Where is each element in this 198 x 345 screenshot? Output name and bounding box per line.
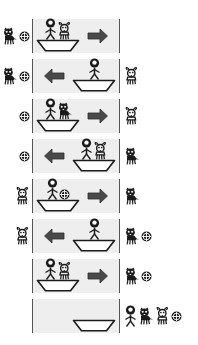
left-bank: [0, 296, 32, 336]
puzzle-step-row: [0, 296, 198, 336]
arrow-left-icon: [43, 148, 65, 164]
coin-icon: [19, 151, 30, 162]
wolf-icon: [124, 227, 140, 245]
person-icon: [44, 18, 57, 40]
river: [32, 99, 120, 133]
puzzle-step-row: [0, 96, 198, 136]
person-icon: [124, 305, 137, 327]
puzzle-step-row: [0, 216, 198, 256]
left-bank: [0, 176, 32, 216]
direction-arrow-slot: [87, 179, 109, 213]
boat-slot: [72, 299, 116, 333]
river: [32, 19, 120, 53]
coin-icon: [19, 111, 30, 122]
person-icon: [44, 98, 57, 120]
person-icon: [88, 218, 101, 240]
boat-slot: [36, 99, 80, 133]
boat-cargo: [36, 180, 80, 200]
coin-icon: [19, 31, 30, 42]
boat-cargo: [72, 220, 116, 240]
river: [32, 219, 120, 253]
wolf-icon: [2, 67, 18, 85]
left-bank: [0, 16, 32, 56]
boat-slot: [72, 219, 116, 253]
boat-hull: [72, 318, 116, 331]
river: [32, 179, 120, 213]
wolf-icon: [2, 27, 18, 45]
puzzle-step-row: [0, 176, 198, 216]
puzzle-step-row: [0, 56, 198, 96]
person-icon: [88, 58, 101, 80]
boat-hull: [36, 198, 80, 211]
boat-hull: [36, 118, 80, 131]
river-crossing-diagram: [0, 0, 198, 345]
right-bank: [122, 136, 198, 176]
boat-icon: [72, 221, 116, 251]
boat-icon: [72, 141, 116, 171]
arrow-left-icon: [43, 68, 65, 84]
coin-icon: [141, 271, 152, 282]
wolf-icon: [124, 147, 140, 165]
person-icon: [46, 178, 59, 200]
boat-hull: [72, 158, 116, 171]
arrow-left-icon: [43, 228, 65, 244]
left-bank: [0, 256, 32, 296]
coin-icon: [141, 231, 152, 242]
right-bank: [122, 16, 198, 56]
direction-arrow-slot: [43, 59, 65, 93]
boat-icon: [36, 101, 80, 131]
arrow-right-icon: [87, 188, 109, 204]
boat-cargo: [36, 100, 80, 120]
river: [32, 139, 120, 173]
boat-slot: [72, 139, 116, 173]
person-icon: [80, 138, 93, 160]
direction-arrow-slot: [87, 19, 109, 53]
boat-hull: [36, 278, 80, 291]
puzzle-step-row: [0, 16, 198, 56]
river: [32, 299, 120, 333]
boat-cargo: [36, 20, 80, 40]
boat-hull: [72, 78, 116, 91]
direction-arrow-slot: [43, 139, 65, 173]
right-bank: [122, 176, 198, 216]
goat-icon: [124, 107, 139, 125]
coin-icon: [19, 71, 30, 82]
right-bank: [122, 256, 198, 296]
direction-arrow-slot: [87, 99, 109, 133]
puzzle-step-row: [0, 256, 198, 296]
arrow-right-icon: [87, 108, 109, 124]
boat-cargo: [36, 260, 80, 280]
boat-slot: [36, 259, 80, 293]
goat-icon: [155, 307, 170, 325]
boat-cargo: [72, 60, 116, 80]
boat-cargo: [72, 300, 116, 320]
boat-icon: [36, 21, 80, 51]
boat-slot: [36, 19, 80, 53]
goat-icon: [124, 67, 139, 85]
boat-icon: [72, 61, 116, 91]
right-bank: [122, 56, 198, 96]
boat-hull: [36, 38, 80, 51]
wolf-icon: [124, 187, 140, 205]
arrow-right-icon: [87, 28, 109, 44]
direction-arrow-slot: [43, 219, 65, 253]
boat-icon: [72, 301, 116, 331]
coin-icon: [171, 311, 182, 322]
goat-icon: [15, 187, 30, 205]
puzzle-step-row: [0, 136, 198, 176]
river: [32, 59, 120, 93]
left-bank: [0, 136, 32, 176]
left-bank: [0, 216, 32, 256]
boat-hull: [72, 238, 116, 251]
boat-slot: [72, 59, 116, 93]
wolf-icon: [124, 267, 140, 285]
right-bank: [122, 96, 198, 136]
boat-icon: [36, 181, 80, 211]
goat-icon: [15, 227, 30, 245]
wolf-icon: [138, 307, 154, 325]
left-bank: [0, 56, 32, 96]
direction-arrow-slot: [87, 259, 109, 293]
boat-slot: [36, 179, 80, 213]
arrow-right-icon: [87, 268, 109, 284]
river: [32, 259, 120, 293]
